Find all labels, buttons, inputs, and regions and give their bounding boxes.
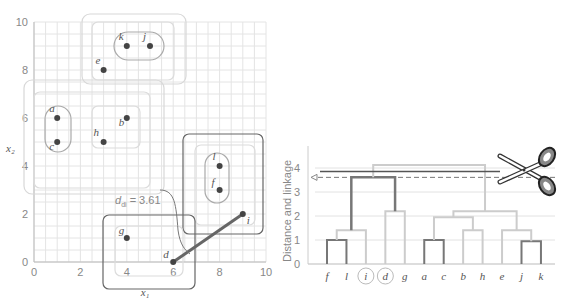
- arrow-icon: [311, 174, 317, 180]
- y-tick: 0: [22, 256, 28, 268]
- leaf-label-k: k: [539, 270, 545, 282]
- point-label: d: [163, 248, 169, 260]
- point-k: [124, 43, 130, 49]
- point-label: c: [49, 140, 54, 152]
- leaf-label-j: j: [518, 270, 523, 282]
- dendrogram-link: [453, 211, 516, 230]
- scatter-plot: 02468100246810x₁x₂ddi = 3.61abcdefghijkl: [5, 14, 272, 298]
- y-tick: 4: [294, 162, 300, 174]
- point-i: [240, 211, 246, 217]
- y-tick: 6: [22, 112, 28, 124]
- dendrogram-link: [502, 230, 531, 264]
- point-f: [217, 187, 223, 193]
- dendrogram: 01234Distance and linkageflidgacbhejk: [281, 145, 558, 284]
- point-label: l: [213, 150, 216, 162]
- dendrogram-link: [434, 217, 473, 240]
- x-tick: 0: [31, 266, 37, 278]
- point-label: k: [119, 30, 125, 42]
- leaf-label-f: f: [325, 270, 330, 282]
- x-axis-label: x₁: [140, 286, 150, 298]
- dendrogram-link: [351, 177, 395, 230]
- point-b: [124, 115, 130, 121]
- point-label: i: [247, 214, 250, 226]
- point-label: g: [119, 224, 125, 236]
- y-axis-label: Distance and linkage: [281, 160, 293, 262]
- point-label: a: [49, 102, 55, 114]
- point-j: [147, 43, 153, 49]
- dendrogram-link: [327, 240, 346, 264]
- y-tick: 0: [294, 258, 300, 270]
- scissors-icon: [500, 145, 558, 198]
- dendrogram-link: [522, 241, 541, 264]
- leaf-label-g: g: [402, 270, 408, 282]
- dendrogram-link: [463, 230, 482, 264]
- x-tick: 8: [217, 266, 223, 278]
- y-tick: 8: [22, 64, 28, 76]
- y-tick: 3: [294, 186, 300, 198]
- dendrogram-link: [424, 240, 443, 264]
- figure: 02468100246810x₁x₂ddi = 3.61abcdefghijkl…: [0, 0, 571, 304]
- leaf-label-d: d: [383, 270, 389, 282]
- dendrogram-link: [385, 211, 404, 264]
- point-label: e: [96, 54, 101, 66]
- point-c: [54, 139, 60, 145]
- point-h: [101, 139, 107, 145]
- cluster-outline: [82, 14, 186, 84]
- point-e: [101, 67, 107, 73]
- annotation-leader: [160, 190, 190, 254]
- leaf-label-a: a: [422, 270, 428, 282]
- y-tick: 10: [16, 16, 28, 28]
- leaf-label-i: i: [364, 270, 367, 282]
- point-a: [54, 115, 60, 121]
- point-g: [124, 235, 130, 241]
- leaf-label-e: e: [500, 270, 505, 282]
- leaf-label-l: l: [345, 270, 348, 282]
- y-tick: 2: [22, 208, 28, 220]
- cluster-outline: [195, 145, 255, 225]
- y-tick: 1: [294, 234, 300, 246]
- point-label: h: [94, 126, 100, 138]
- y-tick: 4: [22, 160, 28, 172]
- leaf-label-b: b: [460, 270, 466, 282]
- x-tick: 10: [260, 266, 272, 278]
- y-tick: 2: [294, 210, 300, 222]
- point-l: [217, 163, 223, 169]
- x-tick: 2: [77, 266, 83, 278]
- leaf-label-h: h: [480, 270, 486, 282]
- y-axis-label: x₂: [5, 142, 15, 154]
- point-d: [170, 259, 176, 265]
- leaf-label-c: c: [441, 270, 446, 282]
- point-label: b: [119, 116, 125, 128]
- dendrogram-link: [337, 230, 366, 264]
- distance-annotation: ddi = 3.61: [115, 194, 161, 208]
